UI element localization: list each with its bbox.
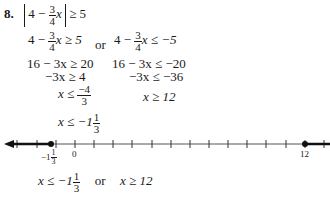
right-step-3: −3x ≤ −36 [129, 70, 183, 83]
left-step-1: 4 − 3 4 x ≥ 5 [28, 30, 82, 53]
label-twelve: 12 [300, 150, 309, 159]
left-step-5: x ≤ −1 1 3 [58, 112, 100, 135]
left-step-3: −3x ≥ 4 [45, 70, 85, 83]
closed-point-right [302, 141, 308, 147]
final-answer: x ≤ −1 1 3 or x ≥ 12 [38, 171, 152, 194]
fraction: 3 4 [48, 30, 56, 53]
fraction: 1 3 [73, 171, 81, 194]
fraction: 1 3 [93, 112, 101, 135]
left-step-4: x ≤ −4 3 [58, 84, 91, 107]
fraction: 3 4 [49, 4, 57, 27]
left-arrow-icon [4, 140, 14, 148]
label-zero: 0 [72, 150, 77, 159]
fraction: −4 3 [77, 84, 91, 107]
absolute-value: 4 − 3 4 x [24, 4, 66, 27]
fraction: 3 4 [134, 30, 142, 53]
problem-number: 8. [4, 6, 14, 21]
connector-or: or [95, 38, 106, 51]
label-neg-one-third: −1 1 3 [41, 149, 57, 166]
closed-point-left [48, 141, 54, 147]
right-step-4: x ≥ 12 [143, 90, 175, 103]
problem-statement: 8. 4 − 3 4 x ≥ 5 [4, 4, 86, 27]
right-step-1: 4 − 3 4 x ≤ −5 [114, 30, 177, 53]
